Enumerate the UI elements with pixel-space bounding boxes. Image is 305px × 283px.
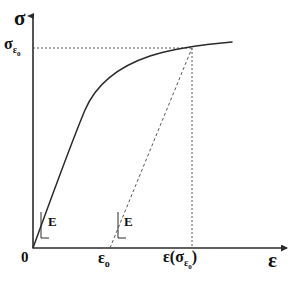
offset-strain-eps: ε <box>98 249 105 266</box>
y-axis-label: σ <box>14 8 25 29</box>
offset-stress-subscript-zero: 0 <box>17 50 21 58</box>
offset-stress-subscript: ε0 <box>13 44 21 55</box>
stress-strain-figure: σ σε0 ε 0 εo ε(σε0) E E <box>0 0 305 283</box>
strain-at-yield-suffix: ) <box>192 248 197 265</box>
strain-at-yield-prefix: ε( <box>163 248 175 265</box>
origin-label: 0 <box>21 250 29 265</box>
offset-strain-subscript: o <box>105 258 110 269</box>
strain-at-yield-label: ε(σε0) <box>163 249 197 271</box>
elastic-modulus-label-2: E <box>124 215 133 228</box>
plot-canvas <box>0 0 305 283</box>
x-axis-label: ε <box>268 250 277 271</box>
strain-at-yield-sigma: σ <box>175 248 184 265</box>
strain-at-yield-subscript: ε0 <box>184 257 192 268</box>
offset-strain-label: εo <box>98 250 110 269</box>
offset-stress-sigma: σ <box>4 35 13 52</box>
offset-line <box>110 48 192 248</box>
elastic-modulus-label-1: E <box>48 215 57 228</box>
offset-yield-stress-label: σε0 <box>4 36 20 58</box>
